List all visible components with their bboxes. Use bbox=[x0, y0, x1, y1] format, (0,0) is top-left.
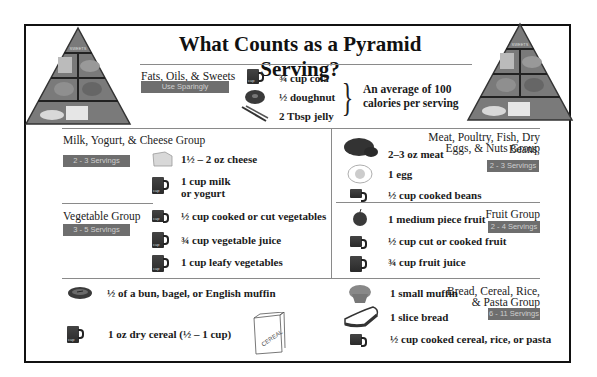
fats-badge: Use Sparingly bbox=[141, 81, 229, 93]
meat-badge: 2 - 3 Servings bbox=[487, 160, 539, 172]
divider bbox=[331, 128, 332, 278]
cup-icon bbox=[350, 334, 362, 345]
divider bbox=[336, 202, 540, 203]
divider bbox=[140, 64, 472, 65]
vegetable-item-1: ½ cup cooked or cut vegetables bbox=[181, 210, 326, 223]
vegetable-item-2: ¾ cup vegetable juice bbox=[181, 234, 281, 247]
apple-icon bbox=[352, 208, 368, 226]
meat-item-1: 2–3 oz meat bbox=[388, 148, 444, 161]
milk-item-1: 1½ – 2 oz cheese bbox=[181, 153, 257, 166]
fats-item-2: ½ doughnut bbox=[279, 91, 335, 104]
bread-item-cereal: 1 oz dry cereal (½ – 1 cup) bbox=[108, 328, 231, 341]
fruit-item-2: ½ cup cut or cooked fruit bbox=[388, 235, 506, 248]
egg-icon bbox=[347, 164, 373, 184]
meat-icon bbox=[343, 137, 379, 159]
bread-item-bagel: ½ of a bun, bagel, or English muffin bbox=[107, 287, 276, 300]
vegetable-item-3: 1 cup leafy vegetables bbox=[181, 256, 283, 269]
bread-badge: 6 - 11 Servings bbox=[488, 308, 540, 320]
divider bbox=[62, 203, 153, 204]
food-pyramid-icon-left: SWEETS bbox=[24, 26, 132, 126]
cup-icon: cup bbox=[152, 210, 164, 222]
cereal-box-icon: CEREAL bbox=[250, 312, 286, 356]
cup-icon bbox=[350, 236, 362, 247]
fats-item-3: 2 Tbsp jelly bbox=[279, 110, 334, 123]
fruit-item-3: ¾ cup fruit juice bbox=[388, 256, 466, 269]
cup-icon: cup bbox=[152, 255, 164, 272]
svg-text:SWEETS: SWEETS bbox=[70, 46, 87, 51]
fats-item-1: ¾ cup cola bbox=[279, 72, 329, 85]
svg-text:SWEETS: SWEETS bbox=[512, 42, 529, 47]
cup-icon: cup bbox=[152, 232, 164, 248]
bread-item-slice: 1 slice bread bbox=[390, 311, 448, 324]
cup-icon: cup bbox=[67, 326, 79, 343]
vegetable-group-label: Vegetable Group bbox=[63, 210, 141, 222]
vegetable-badge: 3 - 5 Servings bbox=[63, 224, 130, 236]
meat-item-2: 1 egg bbox=[388, 168, 412, 181]
fruit-item-1: 1 medium piece fruit bbox=[388, 213, 485, 226]
meat-item-3: ½ cup cooked beans bbox=[388, 189, 482, 202]
jelly-knife-icon bbox=[240, 104, 270, 124]
cheese-icon bbox=[151, 151, 173, 167]
cup-icon: cup bbox=[152, 177, 164, 194]
muffin-icon bbox=[348, 284, 372, 304]
milk-badge: 2 - 3 Servings bbox=[63, 155, 130, 167]
fats-note-line2: calories per serving bbox=[363, 97, 459, 110]
bagel-icon bbox=[67, 286, 93, 300]
cup-icon bbox=[350, 189, 362, 198]
divider bbox=[62, 128, 540, 129]
fats-note-line1: An average of 100 bbox=[363, 83, 451, 96]
divider bbox=[62, 278, 540, 279]
bread-item-muffin: 1 small muffin bbox=[390, 287, 458, 300]
bread-slice-icon bbox=[343, 305, 379, 329]
food-pyramid-icon-right: SWEETS bbox=[466, 22, 574, 122]
cup-icon bbox=[350, 256, 362, 272]
bread-item-cooked: ½ cup cooked cereal, rice, or pasta bbox=[390, 333, 551, 346]
brace-icon: } bbox=[342, 78, 354, 118]
fruit-badge: 2 - 4 Servings bbox=[488, 221, 540, 233]
cup-icon: cup bbox=[247, 69, 259, 84]
milk-group-label: Milk, Yogurt, & Cheese Group bbox=[63, 134, 205, 146]
doughnut-icon bbox=[244, 89, 266, 105]
milk-item-3: or yogurt bbox=[181, 187, 225, 200]
